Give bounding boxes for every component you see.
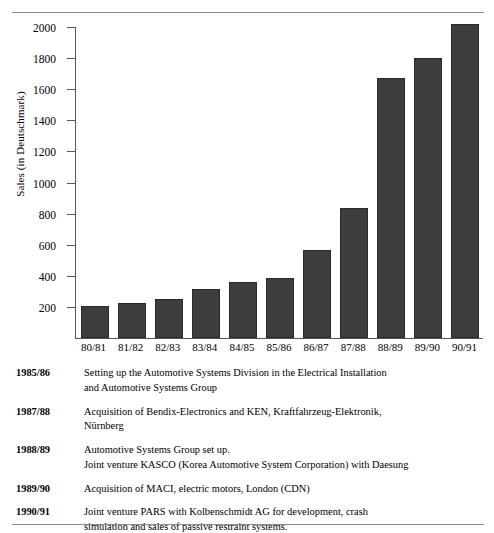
y-tick-600: 600	[67, 245, 75, 246]
milestones-table: 1985/86Setting up the Automotive Systems…	[16, 366, 478, 533]
bar	[266, 278, 294, 338]
milestone-line: simulation and sales of passive restrain…	[84, 520, 478, 533]
y-tick-label: 600	[39, 240, 56, 252]
milestone-year: 1990/91	[16, 505, 84, 520]
milestone-line: Acquisition of MACI, electric motors, Lo…	[84, 482, 478, 497]
milestone-text: Joint venture PARS with Kolbenschmidt AG…	[84, 505, 478, 533]
y-tick-2000: 2000	[67, 27, 75, 28]
plot-area: 200400600800100012001400160018002000 80/…	[75, 27, 483, 347]
bars-group	[75, 27, 483, 338]
milestone-line: Joint venture PARS with Kolbenschmidt AG…	[84, 505, 478, 520]
y-tick-label: 1400	[33, 115, 56, 127]
bar	[81, 306, 109, 338]
milestone-line: and Automotive Systems Group	[84, 381, 478, 396]
x-axis-line	[75, 338, 483, 339]
y-tick-800: 800	[67, 214, 75, 215]
milestone-year: 1987/88	[16, 405, 84, 420]
y-tick-label: 200	[39, 302, 56, 314]
x-tick-label: 90/91	[441, 341, 487, 353]
milestone-text: Automotive Systems Group set up.Joint ve…	[84, 443, 478, 473]
bar	[303, 250, 331, 338]
milestone-line: Acquisition of Bendix-Electronics and KE…	[84, 405, 478, 420]
top-divider	[12, 12, 484, 13]
milestone-line: Automotive Systems Group set up.	[84, 443, 478, 458]
bottom-divider	[12, 524, 484, 525]
bar	[155, 299, 183, 338]
y-tick-200: 200	[67, 307, 75, 308]
milestone-text: Acquisition of MACI, electric motors, Lo…	[84, 482, 478, 497]
y-tick-1800: 1800	[67, 58, 75, 59]
milestone-line: Joint venture KASCO (Korea Automotive Sy…	[84, 458, 478, 473]
milestone-row: 1990/91Joint venture PARS with Kolbensch…	[16, 505, 478, 533]
y-tick-label: 2000	[33, 22, 56, 34]
milestone-year: 1989/90	[16, 482, 84, 497]
y-tick-1200: 1200	[67, 151, 75, 152]
milestone-text: Acquisition of Bendix-Electronics and KE…	[84, 405, 478, 435]
y-tick-1600: 1600	[67, 89, 75, 90]
bar	[192, 289, 220, 338]
bar	[340, 208, 368, 338]
bar	[118, 303, 146, 338]
bar	[414, 58, 442, 338]
y-tick-1000: 1000	[67, 183, 75, 184]
milestone-row: 1988/89Automotive Systems Group set up.J…	[16, 443, 478, 473]
y-tick-label: 1800	[33, 53, 56, 65]
y-tick-label: 400	[39, 271, 56, 283]
milestone-row: 1987/88Acquisition of Bendix-Electronics…	[16, 405, 478, 435]
milestone-row: 1989/90Acquisition of MACI, electric mot…	[16, 482, 478, 497]
milestone-line: Setting up the Automotive Systems Divisi…	[84, 366, 478, 381]
y-tick-label: 1600	[33, 84, 56, 96]
milestone-year: 1985/86	[16, 366, 84, 381]
bar	[229, 282, 257, 338]
y-tick-1400: 1400	[67, 120, 75, 121]
milestone-row: 1985/86Setting up the Automotive Systems…	[16, 366, 478, 396]
y-tick-label: 800	[39, 209, 56, 221]
bar	[451, 24, 479, 338]
milestone-line: Nürnberg	[84, 419, 478, 434]
milestone-text: Setting up the Automotive Systems Divisi…	[84, 366, 478, 396]
y-tick-400: 400	[67, 276, 75, 277]
milestone-year: 1988/89	[16, 443, 84, 458]
y-tick-label: 1200	[33, 146, 56, 158]
y-tick-label: 1000	[33, 178, 56, 190]
bar	[377, 78, 405, 338]
y-axis-title: Sales (in Deutschmark)	[14, 64, 26, 224]
bar-chart: Sales (in Deutschmark) 20040060080010001…	[0, 18, 494, 364]
figure-page: Sales (in Deutschmark) 20040060080010001…	[0, 0, 494, 533]
